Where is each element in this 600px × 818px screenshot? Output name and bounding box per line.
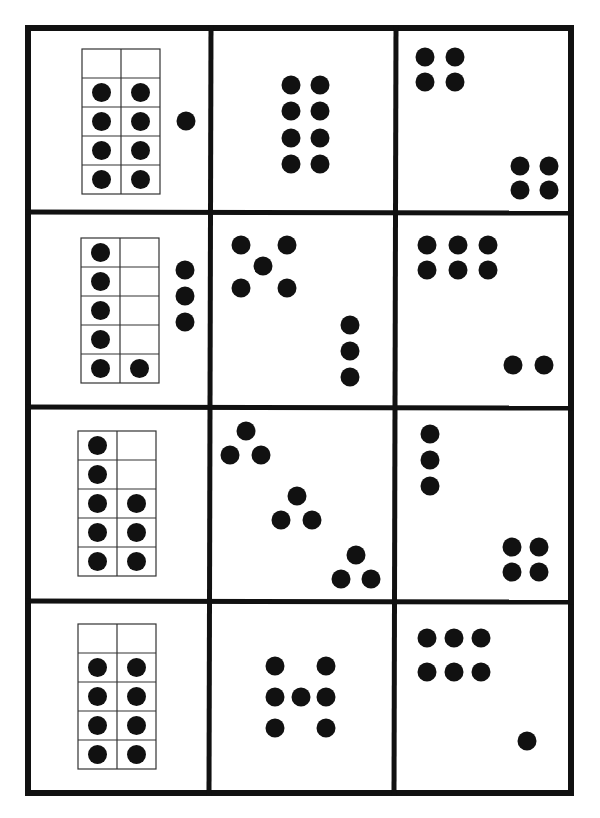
card-cell-r4-c2 — [211, 605, 392, 793]
row-divider — [25, 601, 574, 602]
row-divider — [25, 212, 574, 213]
card-cell-r3-c3 — [397, 411, 571, 599]
card-cell-r2-c3 — [398, 216, 571, 405]
card-cell-r1-c3 — [399, 31, 571, 210]
card-cell-r1-c1 — [31, 31, 209, 210]
counting-card-sheet — [0, 0, 600, 818]
row-divider — [25, 407, 574, 408]
card-cell-r1-c2 — [214, 31, 393, 210]
card-cell-r3-c1 — [31, 411, 209, 599]
card-cell-r2-c2 — [213, 216, 393, 405]
card-cell-r2-c1 — [31, 216, 209, 405]
card-cell-r4-c3 — [396, 605, 571, 793]
card-cell-r3-c2 — [212, 411, 392, 599]
card-cell-r4-c1 — [31, 605, 207, 793]
